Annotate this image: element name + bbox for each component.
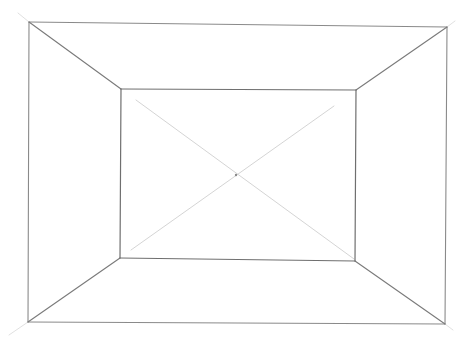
perspective-room-drawing (0, 0, 475, 352)
vanishing-point (235, 174, 237, 176)
